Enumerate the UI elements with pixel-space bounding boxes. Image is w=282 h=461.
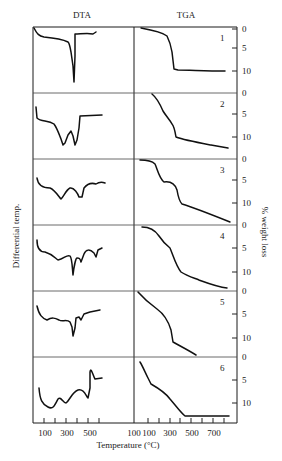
svg-text:5: 5 (242, 243, 247, 253)
svg-text:300: 300 (163, 428, 177, 438)
svg-text:100: 100 (38, 428, 52, 438)
svg-text:0: 0 (242, 352, 247, 362)
tga-curve-3 (140, 160, 230, 222)
dta-curve-6 (39, 370, 102, 408)
dta-x-axis: 100 300 500 (38, 418, 99, 438)
svg-text:5: 5 (242, 309, 247, 319)
svg-text:300: 300 (60, 428, 74, 438)
tga-curves (138, 28, 230, 416)
x-axis-title: Temperature (°C) (96, 440, 159, 450)
tga-curve-4 (142, 227, 227, 288)
svg-text:1: 1 (220, 33, 225, 43)
svg-text:10: 10 (242, 398, 252, 408)
tga-y-axis: 0 5 10 0 5 10 0 5 10 0 5 10 0 5 10 0 5 1… (232, 24, 252, 408)
svg-text:0: 0 (242, 154, 247, 164)
tga-curve-2 (152, 94, 228, 148)
left-y-axis-title: Differential temp. (11, 204, 21, 268)
dta-curve-4 (37, 240, 102, 275)
panel-frames (33, 27, 237, 423)
dta-curve-1 (34, 28, 96, 82)
tga-x-axis: 100 100 300 500 700 (127, 418, 224, 438)
svg-text:10: 10 (242, 66, 252, 76)
svg-text:6: 6 (220, 363, 225, 373)
svg-text:0: 0 (242, 88, 247, 98)
dta-title: DTA (73, 10, 91, 20)
svg-text:10: 10 (242, 267, 252, 277)
svg-text:5: 5 (242, 43, 247, 53)
dta-curve-2 (36, 107, 102, 145)
svg-text:10: 10 (242, 132, 252, 142)
svg-text:0: 0 (242, 286, 247, 296)
tga-title: TGA (177, 10, 196, 20)
right-y-axis-title: % weight loss (260, 207, 270, 258)
tga-curve-5 (138, 292, 196, 355)
svg-text:5: 5 (242, 375, 247, 385)
svg-text:10: 10 (242, 333, 252, 343)
dta-curves (34, 28, 105, 408)
dta-curve-3 (37, 178, 105, 199)
svg-text:500: 500 (83, 428, 97, 438)
tga-curve-1 (141, 28, 225, 71)
sample-labels: 1 2 3 4 5 6 (220, 33, 225, 373)
svg-text:5: 5 (242, 175, 247, 185)
svg-text:4: 4 (220, 231, 225, 241)
svg-text:5: 5 (220, 297, 225, 307)
tga-curve-6 (140, 362, 229, 416)
svg-text:700: 700 (207, 428, 221, 438)
svg-text:0: 0 (242, 24, 247, 34)
svg-text:500: 500 (185, 428, 199, 438)
svg-text:10: 10 (242, 198, 252, 208)
svg-text:2: 2 (220, 99, 225, 109)
svg-text:0: 0 (242, 220, 247, 230)
svg-text:5: 5 (242, 109, 247, 119)
svg-text:3: 3 (220, 165, 225, 175)
svg-text:100: 100 (127, 428, 141, 438)
svg-text:100: 100 (142, 428, 156, 438)
dta-tga-figure: DTA TGA 0 5 10 0 5 10 0 5 10 (0, 0, 282, 461)
dta-curve-5 (37, 306, 100, 336)
